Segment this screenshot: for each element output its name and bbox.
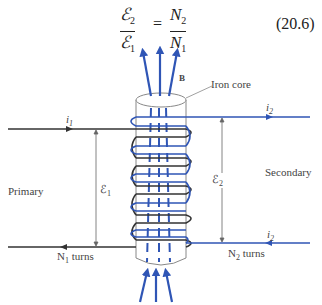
- emf2-label: ℰ2: [212, 173, 223, 188]
- i2-top-label: i2: [266, 101, 273, 116]
- emf1-indicator: [94, 130, 98, 246]
- primary-label: Primary: [8, 185, 43, 197]
- i2-bottom-label: i2: [267, 228, 274, 243]
- field-lines-top: [143, 50, 177, 96]
- secondary-label: Secondary: [265, 166, 311, 178]
- n1-turns-label: N1 turns: [57, 250, 94, 265]
- magnetic-field-label: B: [179, 73, 185, 83]
- iron-core-label: Iron core: [211, 78, 251, 90]
- emf1-label: ℰ1: [100, 183, 111, 198]
- n2-turns-label: N2 turns: [228, 247, 265, 262]
- core-leader-line: [186, 86, 212, 98]
- field-lines-inside-core: [147, 108, 170, 262]
- field-lines-bottom: [140, 272, 172, 302]
- i1-label: i1: [66, 113, 73, 128]
- transformer-diagram: [0, 0, 322, 305]
